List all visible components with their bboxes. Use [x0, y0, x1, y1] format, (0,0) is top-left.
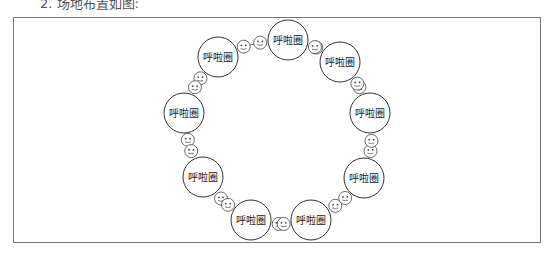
hula-hoop-station: 呼啦圈 — [198, 37, 238, 77]
smiley-face-icon — [185, 145, 198, 158]
hula-hoop-station: 呼啦圈 — [320, 42, 360, 82]
hula-hoop-station: 呼啦圈 — [291, 200, 331, 240]
smiley-face-icon — [222, 198, 235, 211]
smiley-face-icon — [188, 81, 201, 94]
smiley-face-icon — [237, 40, 250, 53]
station-label: 呼啦圈 — [273, 34, 303, 46]
smiley-face-icon — [308, 41, 321, 54]
station-label: 呼啦圈 — [203, 51, 233, 63]
stations: 呼啦圈呼啦圈呼啦圈呼啦圈呼啦圈呼啦圈呼啦圈呼啦圈呼啦圈 — [164, 20, 390, 240]
hula-hoop-station: 呼啦圈 — [164, 93, 204, 133]
station-label: 呼啦圈 — [169, 107, 199, 119]
station-label: 呼啦圈 — [325, 56, 355, 68]
hula-hoop-station: 呼啦圈 — [231, 200, 271, 240]
station-label: 呼啦圈 — [188, 171, 218, 183]
hula-hoop-station: 呼啦圈 — [350, 93, 390, 133]
hula-hoop-ring-diagram: 呼啦圈呼啦圈呼啦圈呼啦圈呼啦圈呼啦圈呼啦圈呼啦圈呼啦圈 — [0, 0, 553, 258]
hula-hoop-station: 呼啦圈 — [183, 157, 223, 197]
smiley-face-icon — [339, 191, 352, 204]
hula-hoop-station: 呼啦圈 — [344, 158, 384, 198]
smiley-face-icon — [365, 134, 378, 147]
hula-hoop-station: 呼啦圈 — [268, 20, 308, 60]
station-label: 呼啦圈 — [236, 214, 266, 226]
station-label: 呼啦圈 — [296, 214, 326, 226]
smiley-face-icon — [277, 217, 290, 230]
station-label: 呼啦圈 — [349, 172, 379, 184]
smiley-face-icon — [254, 36, 267, 49]
station-label: 呼啦圈 — [355, 107, 385, 119]
smiley-face-icon — [351, 77, 364, 90]
